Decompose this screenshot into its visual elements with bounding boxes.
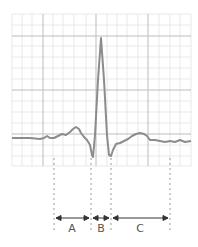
interval-label-c: C — [136, 222, 144, 235]
ecg-diagram — [0, 0, 198, 247]
grid-major — [12, 14, 191, 166]
ecg-trace — [12, 38, 191, 157]
interval-label-a: A — [68, 222, 76, 235]
interval-label-b: B — [97, 222, 105, 235]
dashed-markers — [54, 158, 170, 230]
interval-arrows — [56, 216, 168, 221]
